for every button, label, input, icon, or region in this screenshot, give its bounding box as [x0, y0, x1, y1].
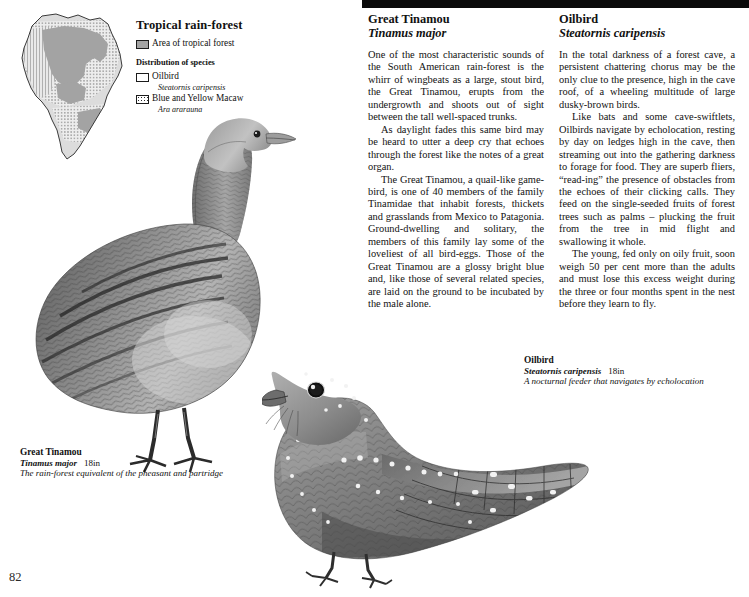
- dotted-box-swatch-icon: [136, 95, 149, 104]
- oilbird-head: [262, 372, 361, 445]
- article-scientific-name: Tinamus major: [368, 26, 544, 40]
- oilbird-legend-label: Oilbird: [152, 71, 179, 82]
- caption-name: Great Tinamou: [20, 447, 230, 458]
- oilbird-legend-sci: Steatornis caripensis: [158, 83, 326, 93]
- caption-name: Oilbird: [524, 355, 739, 366]
- article-scientific-name: Steatornis caripensis: [559, 26, 735, 40]
- caption-description: The rain-forest equivalent of the pheasa…: [20, 468, 230, 479]
- page-number: 82: [9, 570, 22, 585]
- article-paragraph: The young, fed only on oily fruit, soon …: [559, 248, 735, 310]
- article-paragraph: Like bats and some cave-swiftlets, Oilbi…: [559, 111, 735, 248]
- article-heading: Great Tinamou Tinamus major: [368, 12, 544, 40]
- article-great-tinamou: Great Tinamou Tinamus major One of the m…: [368, 12, 544, 311]
- legend-row-macaw: Blue and Yellow Macaw: [136, 93, 326, 104]
- scan-edge-bar: [362, 0, 749, 8]
- caption-scientific-name: Steatornis caripensis: [524, 366, 601, 376]
- caption-scientific-name: Tinamus major: [20, 458, 77, 468]
- article-paragraph: As daylight fades this same bird may be …: [368, 124, 544, 174]
- forest-label: Area of tropical forest: [152, 38, 234, 49]
- tinamou-body: [28, 218, 278, 423]
- book-page: Tropical rain-forest Area of tropical fo…: [0, 0, 749, 597]
- article-paragraph: The Great Tinamou, a quail-like game-bir…: [368, 174, 544, 311]
- legend-title: Tropical rain-forest: [136, 18, 326, 33]
- article-oilbird: Oilbird Steatornis caripensis In the tot…: [559, 12, 735, 311]
- article-heading: Oilbird Steatornis caripensis: [559, 12, 735, 40]
- oilbird-illustration: [262, 362, 592, 594]
- open-box-swatch-icon: [136, 73, 149, 82]
- caption-size: 18in: [84, 458, 100, 468]
- article-paragraph: In the total darkness of a forest cave, …: [559, 49, 735, 111]
- macaw-legend-label: Blue and Yellow Macaw: [152, 93, 243, 104]
- article-paragraph: One of the most characteristic sounds of…: [368, 49, 544, 124]
- map-legend: Tropical rain-forest Area of tropical fo…: [136, 18, 326, 115]
- caption-great-tinamou: Great Tinamou Tinamus major18in The rain…: [20, 447, 230, 479]
- article-title: Oilbird: [559, 12, 598, 26]
- oilbird-eye: [307, 382, 324, 398]
- forest-swatch-icon: [136, 40, 149, 49]
- caption-oilbird: Oilbird Steatornis caripensis18in A noct…: [524, 355, 739, 387]
- legend-distribution-title: Distribution of species: [136, 58, 326, 67]
- legend-row-oilbird: Oilbird: [136, 71, 326, 82]
- tinamou-eye: [254, 131, 261, 138]
- caption-size: 18in: [608, 366, 624, 376]
- oilbird-bill: [262, 390, 286, 406]
- legend-row-forest: Area of tropical forest: [136, 38, 326, 49]
- article-title: Great Tinamou: [368, 12, 450, 26]
- caption-description: A nocturnal feeder that navigates by ech…: [524, 376, 739, 387]
